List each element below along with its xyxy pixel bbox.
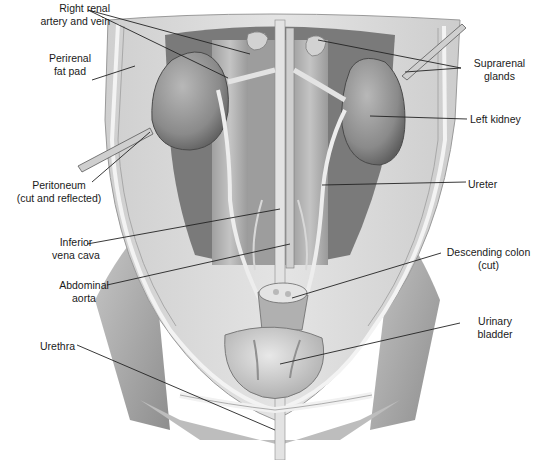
label-line: Urinary (460, 315, 530, 328)
label-left-kidney: Left kidney (470, 113, 537, 126)
label-urethra: Urethra (40, 340, 100, 353)
label-line: Perirenal (30, 52, 110, 65)
label-descending-colon: Descending colon(cut) (440, 246, 537, 271)
label-line: aorta (44, 292, 124, 305)
label-line: Left kidney (470, 113, 537, 126)
label-line: vena cava (36, 249, 116, 262)
label-line: artery and vein (2, 15, 110, 28)
label-line: Peritoneum (4, 179, 114, 192)
label-line: bladder (460, 328, 530, 341)
label-line: fat pad (30, 65, 110, 78)
label-urinary-bladder: Urinarybladder (460, 315, 530, 340)
label-line: Ureter (468, 178, 518, 191)
label-ureter: Ureter (468, 178, 518, 191)
label-peritoneum: Peritoneum(cut and reflected) (4, 179, 114, 204)
left-kidney (342, 58, 405, 165)
label-perirenal-fat-pad: Perirenalfat pad (30, 52, 110, 77)
label-right-renal-artery-vein: Right renalartery and vein (2, 2, 110, 27)
label-line: (cut) (440, 259, 537, 272)
label-line: (cut and reflected) (4, 192, 114, 205)
label-line: Inferior (36, 236, 116, 249)
label-line: Urethra (40, 340, 100, 353)
label-line: Suprarenal (462, 57, 537, 70)
label-abdominal-aorta: Abdominalaorta (44, 279, 124, 304)
label-line: Descending colon (440, 246, 537, 259)
descending-colon-stump (258, 283, 308, 330)
label-line: glands (462, 70, 537, 83)
label-line: Abdominal (44, 279, 124, 292)
anatomy-figure: Right renalartery and veinPerirenalfat p… (0, 0, 537, 460)
label-suprarenal-glands: Suprarenalglands (462, 57, 537, 82)
label-inferior-vena-cava: Inferiorvena cava (36, 236, 116, 261)
label-line: Right renal (2, 2, 110, 15)
